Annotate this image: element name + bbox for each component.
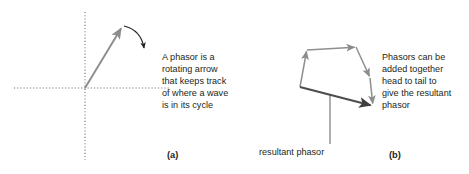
panel-b-description-line-1: Phasors can be <box>382 51 451 63</box>
resultant-phasor-label: resultant phasor <box>259 147 324 157</box>
panel-a-caption: (a) <box>167 150 178 160</box>
panel-a-description: A phasor is a rotating arrow that keeps … <box>162 51 228 111</box>
component-phasor-3 <box>356 47 369 76</box>
panel-b-description-line-3: head to tail to <box>382 75 451 87</box>
panel-b-caption: (b) <box>389 150 401 160</box>
panel-a-description-line-4: of where a wave <box>162 87 228 99</box>
resultant-phasor-arrow <box>300 87 371 105</box>
panel-a-description-line-2: rotating arrow <box>162 63 228 75</box>
panel-b-component-phasors <box>300 47 373 103</box>
rotation-direction-arrow <box>124 26 144 48</box>
phasor-arrow <box>85 29 121 89</box>
component-phasor-1 <box>300 52 307 88</box>
panel-b-description-line-5: phasor <box>382 99 451 111</box>
component-phasor-4 <box>370 78 373 103</box>
phasor-figure: A phasor is a rotating arrow that keeps … <box>0 0 469 174</box>
panel-a-description-line-5: is in its cycle <box>162 99 228 111</box>
panel-a-description-line-3: that keeps track <box>162 75 228 87</box>
panel-b-description-line-4: give the resultant <box>382 87 451 99</box>
panel-a-axes <box>14 12 170 160</box>
component-phasor-2 <box>307 47 355 50</box>
panel-a-description-line-1: A phasor is a <box>162 51 228 63</box>
panel-b-description: Phasors can be added together head to ta… <box>382 51 451 111</box>
panel-b-description-line-2: added together <box>382 63 451 75</box>
